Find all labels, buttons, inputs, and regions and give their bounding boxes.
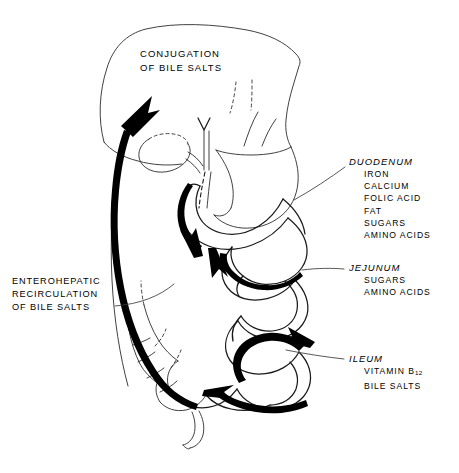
- ileum-item-bile-salts: BILE SALTS: [364, 380, 423, 392]
- duodenum-item: IRON: [364, 168, 431, 180]
- ileum-item-vitamin-b12: VITAMIN B12: [364, 365, 423, 380]
- gallbladder: [139, 134, 190, 173]
- conjugation-label-line1: CONJUGATION: [140, 47, 222, 61]
- cecum-and-appendix: [156, 361, 206, 449]
- duodenum-flow-arrow: [177, 183, 203, 258]
- conjugation-label-line2: OF BILE SALTS: [140, 61, 222, 75]
- enterohepatic-flow-arrow: [111, 96, 198, 410]
- enterohepatic-label: ENTEROHEPATIC RECIRCULATION OF BILE SALT…: [12, 275, 100, 315]
- duodenum-item: CALCIUM: [364, 180, 431, 192]
- conjugation-label: CONJUGATION OF BILE SALTS: [140, 47, 222, 74]
- jejunum-region-name: JEJUNUM: [349, 261, 431, 274]
- leader-jejunum: [302, 268, 344, 270]
- jejunum-label-block: JEJUNUM SUGARS AMINO ACIDS: [349, 261, 431, 298]
- duodenum-item: FOLIC ACID: [364, 192, 431, 204]
- duodenum-region-name: DUODENUM: [349, 155, 431, 168]
- ileum-item-vitamin-b12-sub: 12: [415, 369, 423, 376]
- liver-fissure-marks: [230, 80, 276, 146]
- duodenum-label-block: DUODENUM IRON CALCIUM FOLIC ACID FAT SUG…: [349, 155, 431, 241]
- duodenum-item: FAT: [364, 205, 431, 217]
- enterohepatic-label-line1: ENTEROHEPATIC: [12, 275, 100, 288]
- enterohepatic-label-line2: RECIRCULATION: [12, 288, 100, 301]
- terminal-ileum-flow-arrow: [202, 385, 308, 413]
- jejunum-item: AMINO ACIDS: [364, 286, 431, 298]
- duodenum-item: AMINO ACIDS: [364, 229, 431, 241]
- duodenum-item: SUGARS: [364, 217, 431, 229]
- anatomy-diagram: CONJUGATION OF BILE SALTS ENTEROHEPATIC …: [0, 0, 459, 473]
- duodenum-absorbed-list: IRON CALCIUM FOLIC ACID FAT SUGARS AMINO…: [349, 168, 431, 241]
- ileum-flow-arrow: [233, 327, 315, 383]
- stomach-outline: [214, 147, 298, 228]
- jejunum-item: SUGARS: [364, 274, 431, 286]
- leader-duodenum: [294, 167, 345, 200]
- ileum-label-block: ILEUM VITAMIN B12 BILE SALTS: [349, 352, 423, 392]
- jejunum-absorbed-list: SUGARS AMINO ACIDS: [349, 274, 431, 298]
- bile-duct-system: [186, 118, 211, 208]
- liver-outline: [100, 25, 300, 165]
- enterohepatic-label-line3: OF BILE SALTS: [12, 301, 100, 314]
- ileum-item-vitamin-b12-text: VITAMIN B: [364, 366, 415, 376]
- jejunum-flow-arrow: [208, 248, 303, 290]
- ileum-absorbed-list: VITAMIN B12 BILE SALTS: [349, 365, 423, 392]
- ileum-region-name: ILEUM: [349, 352, 423, 365]
